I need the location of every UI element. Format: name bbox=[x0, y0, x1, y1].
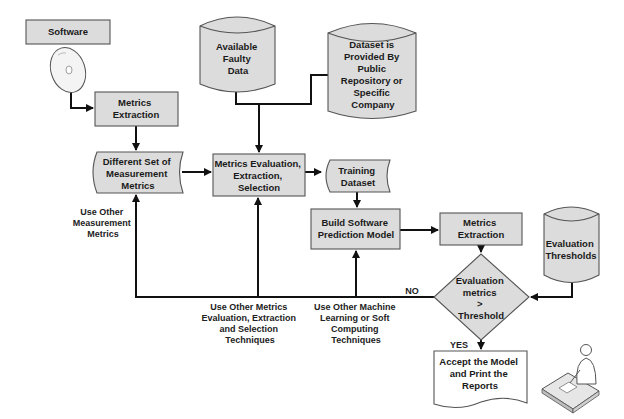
evaluation-thresholds-node: Evaluation Thresholds bbox=[544, 207, 599, 283]
decision-node: Evaluation metrics > Threshold bbox=[434, 254, 529, 340]
available-faulty-data-node: Available Faulty Data bbox=[200, 17, 275, 92]
edge-label-no: NO bbox=[405, 286, 419, 296]
person-at-desk-icon bbox=[542, 345, 599, 414]
build-model-node: Build Software Prediction Model bbox=[311, 209, 400, 249]
svg-text:Build Software Predictio: Build Software Prediction Model bbox=[318, 217, 395, 240]
edge-label-use-other-measurement: Use Other Measurement Metrics bbox=[73, 207, 134, 239]
edge-label-yes: YES bbox=[450, 340, 468, 350]
edge-label-use-other-evaluation: Use Other Metrics Evaluation, Extraction… bbox=[201, 302, 298, 345]
svg-text:Metrics Extraction: Metrics Extraction bbox=[458, 217, 505, 240]
edge-faulty-data-to-evaluation bbox=[236, 92, 259, 152]
svg-text:Software: Software bbox=[48, 26, 88, 37]
svg-text:Metrics Extraction: Metrics Extraction bbox=[113, 97, 160, 120]
edge-cd-to-extraction bbox=[71, 92, 93, 108]
measurement-metrics-node: Different Set of Measurement Metrics bbox=[93, 152, 183, 193]
metrics-extraction-right-node: Metrics Extraction bbox=[440, 213, 522, 245]
public-dataset-node: Dataset is Provided By Public Repository… bbox=[328, 24, 416, 119]
cd-disc-icon bbox=[45, 43, 92, 97]
metrics-extraction-left-node: Metrics Extraction bbox=[95, 92, 178, 126]
svg-text:Training Dataset: Training Dataset bbox=[338, 165, 378, 188]
metrics-evaluation-node: Metrics Evaluation, Extraction, Selectio… bbox=[213, 154, 305, 196]
edge-thresholds-to-decision bbox=[531, 283, 572, 297]
flowchart-canvas: Software Metrics Extraction Different Se… bbox=[0, 0, 624, 419]
accept-model-node: Accept the Model and Print the Reports bbox=[434, 351, 527, 408]
training-dataset-node: Training Dataset bbox=[326, 160, 390, 192]
edge-label-use-other-ml: Use Other Machine Learning or Soft Compu… bbox=[314, 302, 398, 345]
software-node: Software bbox=[26, 20, 110, 44]
svg-text:Evaluation Thresholds: Evaluation Thresholds bbox=[545, 238, 596, 261]
